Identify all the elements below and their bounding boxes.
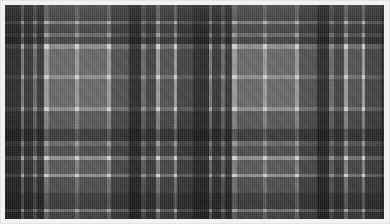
weft-guard-white xyxy=(5,75,384,79)
weft-charcoal-block xyxy=(5,5,384,21)
warp-charcoal-block xyxy=(5,5,21,219)
warp-mid-dark-bar xyxy=(146,5,156,219)
weft-mid-field xyxy=(5,160,384,174)
twill-weave-texture xyxy=(5,5,384,219)
warp-mid-dark-field xyxy=(177,5,193,219)
scan-grain-overlay xyxy=(5,5,384,219)
swatch-mount-border xyxy=(0,0,390,224)
warp-ground-field xyxy=(267,5,295,219)
warp-guard-white xyxy=(362,5,365,219)
warp-mid-field xyxy=(111,5,129,219)
warp-ground-field xyxy=(79,5,107,219)
weft-ground-field xyxy=(5,49,384,75)
warp-charcoal-block xyxy=(317,5,329,219)
warp-guard-white xyxy=(263,5,267,219)
weft-guard-white xyxy=(5,174,384,177)
warp-guard-white xyxy=(107,5,111,219)
tartan-fabric-plate xyxy=(5,5,384,219)
warp-dark-bar xyxy=(225,5,232,219)
weft-pale-pinstripe xyxy=(5,209,384,212)
warp-guard-white xyxy=(344,5,348,219)
weft-pale-pinstripe xyxy=(5,21,384,24)
warp-mid-dark-bar xyxy=(334,5,344,219)
weft-guard-white xyxy=(5,44,384,49)
weft-guard-white xyxy=(5,107,384,111)
warp-mid-field xyxy=(160,5,174,219)
warp-guard-white xyxy=(295,5,299,219)
fabric-vignette xyxy=(5,5,384,219)
warp-pale-pinstripe xyxy=(21,5,24,219)
warp-mid-field xyxy=(348,5,362,219)
warp-ground-field xyxy=(49,5,75,219)
thread-line-texture xyxy=(5,5,384,219)
warp-dark-bar xyxy=(212,5,221,219)
warp-ground-field xyxy=(237,5,263,219)
warp-guard-white xyxy=(75,5,79,219)
weft-mid-dark-bar xyxy=(5,146,384,156)
weft-dark-bar xyxy=(5,24,384,33)
weft-charcoal-block xyxy=(5,193,384,209)
weft-charcoal-block xyxy=(5,129,384,141)
warp-ground-gap xyxy=(141,5,146,219)
weft-mid-field xyxy=(5,111,384,129)
weft-dark-bar xyxy=(5,212,384,219)
warp-charcoal-block xyxy=(129,5,141,219)
warp-guard-white xyxy=(44,5,49,219)
weft-ground-field xyxy=(5,79,384,107)
warp-guard-white xyxy=(174,5,177,219)
warp-dark-bar xyxy=(37,5,44,219)
warp-guard-white xyxy=(156,5,160,219)
warp-ground-gap xyxy=(221,5,225,219)
weft-dark-bar xyxy=(5,37,384,44)
warp-mid-dark-field xyxy=(365,5,381,219)
warp-charcoal-block xyxy=(381,5,384,219)
weft-guard-white xyxy=(5,156,384,160)
warp-guard-white xyxy=(232,5,237,219)
warp-mid-field xyxy=(299,5,317,219)
weft-ground-gap xyxy=(5,141,384,146)
warp-ground-gap xyxy=(33,5,37,219)
weft-ground-gap xyxy=(5,33,384,37)
warp-dark-bar xyxy=(24,5,33,219)
warp-charcoal-block xyxy=(193,5,209,219)
warp-ground-gap xyxy=(329,5,334,219)
weft-mid-dark-field xyxy=(5,177,384,193)
warp-pale-pinstripe xyxy=(209,5,212,219)
